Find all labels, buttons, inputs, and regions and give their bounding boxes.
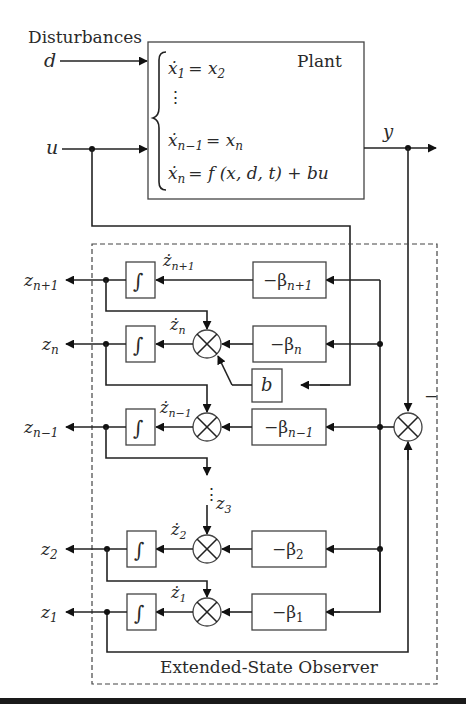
observer-label: Extended-State Observer — [160, 657, 379, 677]
b-gain: b — [218, 356, 282, 402]
d-label: d — [44, 49, 56, 71]
bottom-rule — [0, 698, 466, 704]
zdot-1-label: ż1 — [170, 583, 186, 605]
zdot-n-plus-1-label: żn+1 — [162, 251, 195, 273]
plant-eq-ellipsis: ⋮ — [167, 87, 184, 107]
disturbances-label: Disturbances — [28, 27, 142, 47]
error-sum-junction — [394, 413, 422, 441]
y-label: y — [382, 121, 394, 142]
b-gain-label: b — [261, 374, 273, 395]
z-n-label: zn — [41, 334, 59, 357]
row-2: −β2 ż2 ∫ z2 — [40, 520, 380, 597]
sum-junction-n-minus-1 — [193, 413, 221, 441]
plant-label: Plant — [297, 51, 342, 71]
integral-icon: ∫ — [133, 333, 143, 357]
u-label: u — [46, 136, 58, 158]
zdot-n-label: żn — [169, 315, 186, 337]
plant-eq-n: ẋn= f (x, d, t) + bu — [168, 163, 329, 186]
sum-junction-1 — [193, 598, 221, 626]
integral-icon: ∫ — [134, 538, 144, 562]
row-n-minus-1: −βn−1 żn−1 ∫ zn−1 — [23, 398, 380, 475]
z-n-minus-1-label: zn−1 — [23, 417, 58, 440]
zdot-2-label: ż2 — [170, 520, 186, 542]
z-2-label: z2 — [40, 539, 58, 562]
integral-icon: ∫ — [133, 416, 143, 440]
integral-icon: ∫ — [133, 269, 143, 293]
eso-block-diagram: Disturbances d u Plant ẋ1= x2 ⋮ ẋn−1= xn… — [0, 0, 466, 714]
integral-icon: ∫ — [134, 601, 144, 625]
zdot-n-minus-1-label: żn−1 — [159, 398, 192, 420]
z3-label: z3 — [215, 494, 231, 516]
sum-junction-n — [193, 330, 221, 358]
sum-junction-2 — [193, 535, 221, 563]
z-n-plus-1-label: zn+1 — [23, 270, 58, 293]
z-1-label: z1 — [40, 602, 58, 625]
plant-eq-1: ẋ1= x2 — [168, 58, 225, 81]
minus-sign: − — [424, 386, 438, 406]
row-n-plus-1: −βn+1 żn+1 ∫ zn+1 — [23, 251, 380, 329]
